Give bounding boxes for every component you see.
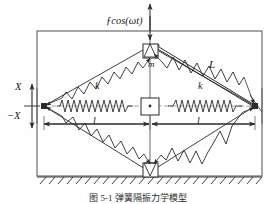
spring-lower-right [161,112,243,164]
diagonal-length-arrow [154,44,262,112]
spring-lower-left [62,116,144,159]
right-pivot-node [252,88,262,124]
half-length-label-left: l [93,116,96,126]
diagonal-length-label: L [209,59,215,70]
figure-container: ƒcos(ωt) m L k k l l X −X 图 5-1 弹簧隔振力学模型 [0,0,276,204]
base-block [143,163,158,177]
stiffness-label-left: k [95,81,99,91]
spring-upper-left [62,62,143,99]
displacement-positive-label: X [15,82,21,93]
dimension-arrow-left [44,116,149,130]
force-label: ƒcos(ωt) [106,16,143,27]
stiffness-label-right: k [198,81,202,91]
spring-upper-right [162,57,244,85]
hatched-ground [37,177,262,184]
displacement-negative-label: −X [7,111,21,122]
center-block [141,98,159,115]
mass-label: m [148,60,155,69]
displacement-arrow [24,84,40,128]
dimension-arrow-right [150,116,255,130]
half-length-label-right: l [197,116,200,126]
spring-isolator-diagram [0,0,276,204]
figure-caption: 图 5-1 弹簧隔振力学模型 [0,191,276,204]
